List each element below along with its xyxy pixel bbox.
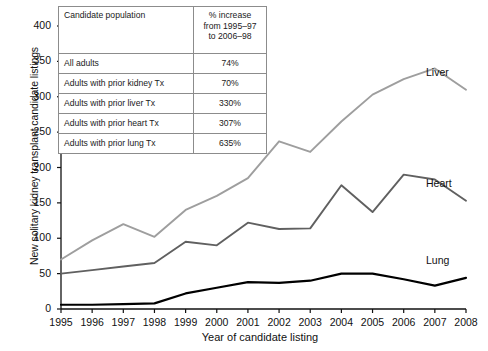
header-line-1: % increase [209, 10, 252, 20]
series-label-heart: Heart [426, 177, 452, 189]
y-tick-label: 200 [19, 162, 51, 172]
table-row: Adults with prior heart Tx307% [59, 114, 267, 134]
y-tick-label: 0 [19, 303, 51, 313]
summary-table: Candidate population % increase from 199… [58, 6, 267, 154]
header-line-3: to 2006–98 [208, 31, 251, 41]
summary-table-body: All adults74%Adults with prior kidney Tx… [59, 54, 267, 154]
chart-figure: New solitary kidney transplant candidate… [0, 0, 488, 351]
cell-population: Adults with prior heart Tx [59, 114, 194, 134]
table-row: Adults with prior kidney Tx70% [59, 74, 267, 94]
y-tick-label: 350 [19, 55, 51, 65]
cell-increase: 635% [194, 134, 267, 154]
summary-table-head: Candidate population % increase from 199… [59, 7, 267, 54]
header-percent-increase: % increase from 1995–97 to 2006–98 [194, 7, 267, 54]
series-label-lung: Lung [426, 254, 449, 266]
table-row: All adults74% [59, 54, 267, 74]
x-axis-title: Year of candidate listing [55, 331, 465, 343]
y-tick-label: 150 [19, 197, 51, 207]
table-header-row: Candidate population % increase from 199… [59, 7, 267, 54]
cell-increase: 70% [194, 74, 267, 94]
cell-population: Adults with prior kidney Tx [59, 74, 194, 94]
series-line-lung [61, 274, 466, 305]
cell-increase: 330% [194, 94, 267, 114]
y-axis-title: New solitary kidney transplant candidate… [28, 6, 40, 306]
y-tick-label: 250 [19, 126, 51, 136]
y-tick-label: 100 [19, 232, 51, 242]
cell-population: Adults with prior liver Tx [59, 94, 194, 114]
header-line-2: from 1995–97 [203, 21, 256, 31]
header-candidate-population: Candidate population [59, 7, 194, 54]
y-tick-label: 300 [19, 91, 51, 101]
table-row: Adults with prior liver Tx330% [59, 94, 267, 114]
x-tick-label: 2008 [446, 316, 486, 328]
cell-population: All adults [59, 54, 194, 74]
cell-population: Adults with prior lung Tx [59, 134, 194, 154]
y-tick-label: 50 [19, 268, 51, 278]
cell-increase: 74% [194, 54, 267, 74]
cell-increase: 307% [194, 114, 267, 134]
series-label-liver: Liver [426, 66, 449, 78]
y-tick-label: 400 [19, 20, 51, 30]
table-row: Adults with prior lung Tx635% [59, 134, 267, 154]
